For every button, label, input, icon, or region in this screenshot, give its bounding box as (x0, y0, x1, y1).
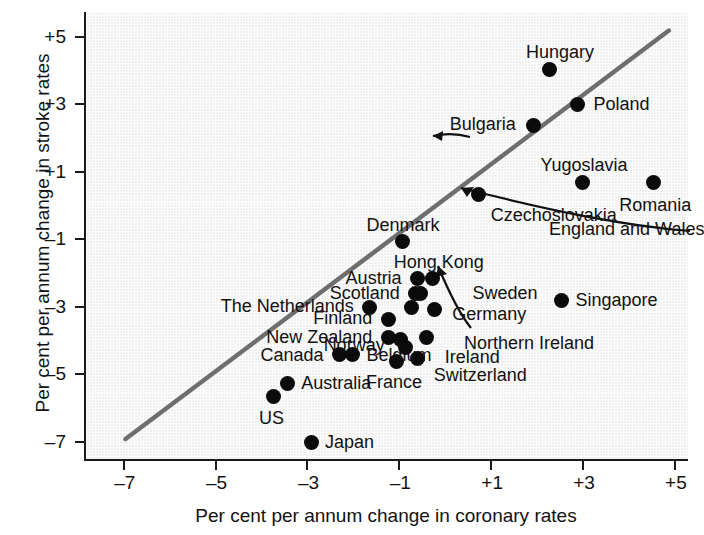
x-axis-tick: +1 (490, 459, 492, 470)
data-point-label: France (366, 373, 422, 391)
x-axis-tick-label: +3 (562, 472, 606, 494)
data-point-dot[interactable] (345, 347, 360, 362)
y-axis-tick: +1 (75, 171, 86, 173)
x-axis-tick: –1 (398, 459, 400, 470)
data-point-dot[interactable] (471, 187, 486, 202)
y-axis-tick: +5 (75, 36, 86, 38)
y-axis-tick: +3 (75, 103, 86, 105)
x-axis-tick-label: +1 (470, 472, 514, 494)
y-axis-tick: –5 (75, 373, 86, 375)
scatter-plot-figure: HungaryPolandBulgariaYugoslaviaRomaniaCz… (0, 0, 704, 535)
data-point-dot[interactable] (280, 376, 295, 391)
data-point-dot[interactable] (404, 300, 419, 315)
x-axis-tick: –7 (123, 459, 125, 470)
x-axis-tick-label: –7 (103, 472, 147, 494)
y-axis-tick: –1 (75, 238, 86, 240)
data-point-label: Finland (313, 309, 372, 327)
x-axis-tick: +3 (582, 459, 584, 470)
data-point-dot[interactable] (381, 312, 396, 327)
data-point-dot[interactable] (646, 175, 661, 190)
x-axis-tick-label: –3 (286, 472, 330, 494)
data-point-label: US (259, 409, 284, 427)
data-point-label: Hungary (526, 43, 594, 61)
x-axis-tick: +5 (674, 459, 676, 470)
data-point-label: Sweden (472, 284, 537, 302)
data-point-label: England and Wales (549, 220, 704, 238)
data-point-dot[interactable] (389, 354, 404, 369)
data-point-label: Japan (325, 433, 374, 451)
data-point-label: Bulgaria (450, 115, 516, 133)
data-point-label: Denmark (366, 216, 439, 234)
data-point-dot[interactable] (554, 293, 569, 308)
data-point-label: Singapore (575, 291, 657, 309)
data-point-dot[interactable] (526, 118, 541, 133)
plot-area: HungaryPolandBulgariaYugoslaviaRomaniaCz… (84, 12, 688, 461)
data-point-label: Germany (452, 305, 526, 323)
data-point-label: Poland (593, 95, 649, 113)
data-point-label: Northern Ireland (464, 334, 594, 352)
data-point-label: Canada (260, 346, 323, 364)
x-axis-tick: –3 (306, 459, 308, 470)
data-point-dot[interactable] (575, 175, 590, 190)
x-axis-tick-label: –1 (378, 472, 422, 494)
data-point-label: Australia (301, 374, 371, 392)
y-axis-tick: –3 (75, 306, 86, 308)
data-point-label: Yugoslavia (541, 156, 628, 174)
x-axis-tick: –5 (215, 459, 217, 470)
y-axis-title: Per cent per annum change in stroke rate… (32, 8, 54, 458)
x-axis-tick-label: –5 (195, 472, 239, 494)
x-axis-title: Per cent per annum change in coronary ra… (84, 505, 688, 527)
y-axis-tick: –7 (75, 441, 86, 443)
data-point-dot[interactable] (410, 351, 425, 366)
x-axis-tick-label: +5 (654, 472, 698, 494)
data-point-dot[interactable] (304, 435, 319, 450)
data-point-dot[interactable] (427, 302, 442, 317)
data-point-label: Romania (619, 196, 691, 214)
data-point-label: Hong Kong (394, 253, 484, 271)
data-point-label: Switzerland (434, 366, 527, 384)
